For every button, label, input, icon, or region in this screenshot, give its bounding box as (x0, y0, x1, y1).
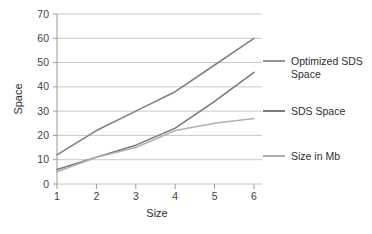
x-axis-tick-label: 5 (212, 190, 218, 202)
x-axis-tick-label: 1 (54, 190, 60, 202)
y-axis-tick-label: 10 (37, 153, 49, 165)
y-axis-tick-label: 0 (43, 178, 49, 190)
chart-canvas: 010203040506070 123456 Space Size Optimi… (0, 0, 372, 234)
y-axis-tick-label: 50 (37, 56, 49, 68)
x-axis-title: Size (146, 207, 167, 219)
y-axis-tick-label: 40 (37, 80, 49, 92)
y-axis-tick-label: 20 (37, 129, 49, 141)
y-axis-title: Space (12, 83, 24, 114)
x-axis-tick-label: 4 (172, 190, 178, 202)
x-axis-tick-label: 6 (251, 190, 257, 202)
line-chart: 010203040506070 123456 Space Size Optimi… (0, 0, 372, 234)
legend-label-wrap: Space (291, 68, 321, 80)
y-axis-tick-label: 30 (37, 105, 49, 117)
legend-label: Optimized SDS (291, 55, 363, 67)
legend-label: SDS Space (291, 105, 345, 117)
x-axis-tick-label: 2 (93, 190, 99, 202)
y-axis-tick-label: 70 (37, 8, 49, 20)
x-axis-tick-label: 3 (133, 190, 139, 202)
y-axis-tick-label: 60 (37, 32, 49, 44)
legend-label: Size in Mb (291, 150, 340, 162)
